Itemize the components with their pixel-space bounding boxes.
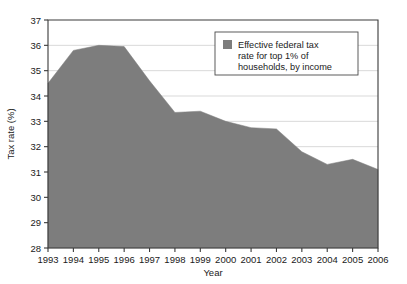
y-tick-label: 33 bbox=[30, 116, 41, 127]
y-tick-label: 35 bbox=[30, 65, 41, 76]
y-tick-label: 36 bbox=[30, 40, 41, 51]
y-tick-label: 37 bbox=[30, 15, 41, 26]
x-tick-label: 2005 bbox=[342, 254, 363, 265]
y-tick-label: 31 bbox=[30, 167, 41, 178]
y-tick-label: 32 bbox=[30, 141, 41, 152]
x-tick-label: 1999 bbox=[190, 254, 211, 265]
x-tick-label: 1993 bbox=[37, 254, 58, 265]
x-tick-label: 2002 bbox=[266, 254, 287, 265]
tax-rate-area-chart: 28293031323334353637 1993199419951996199… bbox=[0, 0, 407, 284]
chart-figure: 28293031323334353637 1993199419951996199… bbox=[0, 0, 407, 284]
x-tick-label: 1994 bbox=[63, 254, 84, 265]
x-tick-label: 1996 bbox=[114, 254, 135, 265]
legend-label-line1: Effective federal tax bbox=[238, 40, 319, 50]
y-tick-label: 34 bbox=[30, 91, 41, 102]
chart-legend: Effective federal tax rate for top 1% of… bbox=[215, 32, 358, 75]
y-tick-label: 28 bbox=[30, 243, 41, 254]
legend-swatch-icon bbox=[223, 40, 232, 49]
x-tick-label: 1995 bbox=[88, 254, 109, 265]
x-tick-label: 1997 bbox=[139, 254, 160, 265]
x-tick-label: 2006 bbox=[367, 254, 388, 265]
x-tick-label: 2003 bbox=[291, 254, 312, 265]
y-axis-title: Tax rate (%) bbox=[5, 108, 16, 159]
x-tick-label: 2000 bbox=[215, 254, 236, 265]
y-tick-label: 29 bbox=[30, 217, 41, 228]
legend-label-line2: rate for top 1% of bbox=[238, 51, 309, 61]
x-tick-label: 2004 bbox=[317, 254, 338, 265]
x-axis-title: Year bbox=[203, 267, 222, 278]
x-tick-label: 2001 bbox=[241, 254, 262, 265]
x-tick-label: 1998 bbox=[164, 254, 185, 265]
y-tick-label: 30 bbox=[30, 192, 41, 203]
legend-label-line3: households, by income bbox=[238, 62, 332, 72]
